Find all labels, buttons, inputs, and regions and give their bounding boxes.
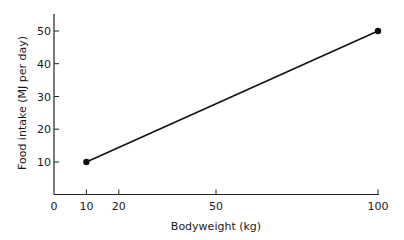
x-tick-label: 20 — [112, 200, 126, 213]
y-tick-labels: 10 20 30 40 50 — [37, 25, 51, 169]
y-tick-label: 30 — [37, 91, 51, 104]
y-axis-title: Food intake (MJ per day) — [16, 36, 29, 170]
x-ticks — [86, 190, 378, 195]
data-line — [86, 31, 378, 162]
y-ticks — [54, 31, 59, 162]
data-point — [83, 159, 89, 165]
y-tick-label: 10 — [37, 156, 51, 169]
x-axis-title: Bodyweight (kg) — [171, 220, 261, 233]
data-point — [375, 28, 381, 34]
x-tick-label: 0 — [51, 200, 58, 213]
y-tick-label: 20 — [37, 123, 51, 136]
line-chart: 10 20 30 40 50 0 10 20 50 100 Bodyweight… — [0, 0, 404, 240]
x-tick-label: 10 — [79, 200, 93, 213]
y-tick-label: 40 — [37, 58, 51, 71]
x-tick-label: 50 — [209, 200, 223, 213]
x-tick-label: 100 — [368, 200, 389, 213]
x-tick-labels: 0 10 20 50 100 — [51, 200, 389, 213]
y-tick-label: 50 — [37, 25, 51, 38]
